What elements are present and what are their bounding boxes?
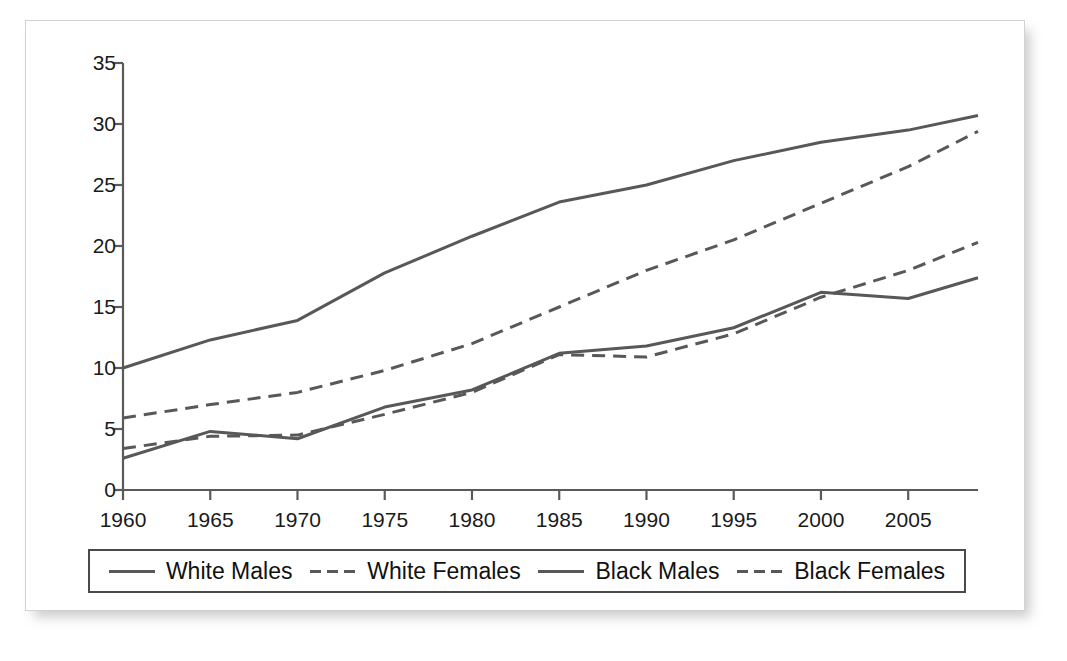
legend-label: White Males: [166, 560, 293, 583]
x-axis-tick-label: 1975: [340, 509, 430, 530]
chart-legend: White MalesWhite FemalesBlack MalesBlack…: [88, 549, 966, 593]
x-axis-tick-label: 1985: [514, 509, 604, 530]
screenshot-root: 05101520253035 1960196519701975198019851…: [0, 0, 1067, 661]
x-axis-tick-label: 1990: [601, 509, 691, 530]
x-axis-tick-label: 1960: [78, 509, 168, 530]
legend-swatch-solid-line-icon: [109, 570, 155, 573]
x-axis-tick-label: 1995: [689, 509, 779, 530]
line-chart: 05101520253035 1960196519701975198019851…: [26, 21, 1026, 612]
legend-label: White Females: [367, 560, 520, 583]
legend-item-white-females[interactable]: White Females: [310, 560, 520, 583]
figure-card: 05101520253035 1960196519701975198019851…: [25, 20, 1025, 611]
legend-swatch-dashed-line-icon: [737, 570, 783, 573]
legend-swatch-solid-line-icon: [538, 570, 584, 573]
x-axis-tick-label: 1970: [252, 509, 342, 530]
legend-item-white-males[interactable]: White Males: [109, 560, 293, 583]
legend-label: Black Females: [794, 560, 945, 583]
legend-label: Black Males: [595, 560, 719, 583]
x-axis-tick-labels: 1960196519701975198019851990199520002005: [26, 21, 1026, 612]
legend-item-black-males[interactable]: Black Males: [538, 560, 719, 583]
x-axis-tick-label: 1980: [427, 509, 517, 530]
legend-item-black-females[interactable]: Black Females: [737, 560, 945, 583]
x-axis-tick-label: 2005: [863, 509, 953, 530]
x-axis-tick-label: 2000: [776, 509, 866, 530]
x-axis-tick-label: 1965: [165, 509, 255, 530]
legend-swatch-dashed-line-icon: [310, 570, 356, 573]
